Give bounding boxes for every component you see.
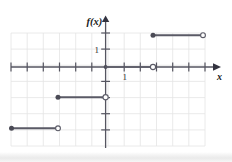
graph-canvas: f(x) x 1 1	[0, 0, 232, 162]
screenshot-root: f(x) x 1 1	[0, 0, 232, 162]
x-unit-tick-label: 1	[123, 72, 128, 82]
y-unit-tick-label: 1	[95, 45, 100, 55]
x-axis-arrowhead	[213, 63, 221, 70]
step-function-graph: f(x) x 1 1	[0, 0, 232, 162]
segment-2-open-endpoint	[103, 95, 108, 100]
segment-1-closed-endpoint	[9, 126, 14, 131]
segment-4-open-endpoint	[201, 33, 206, 38]
y-axis-arrowhead	[102, 16, 109, 23]
y-axis-label: f(x)	[87, 16, 103, 28]
segment-3-open-endpoint	[150, 64, 155, 69]
segment-4-closed-endpoint	[151, 33, 156, 38]
segment-2-closed-endpoint	[56, 95, 61, 100]
footer-band	[0, 152, 232, 162]
x-axis-label: x	[216, 71, 222, 82]
segment-1-open-endpoint	[56, 126, 61, 131]
